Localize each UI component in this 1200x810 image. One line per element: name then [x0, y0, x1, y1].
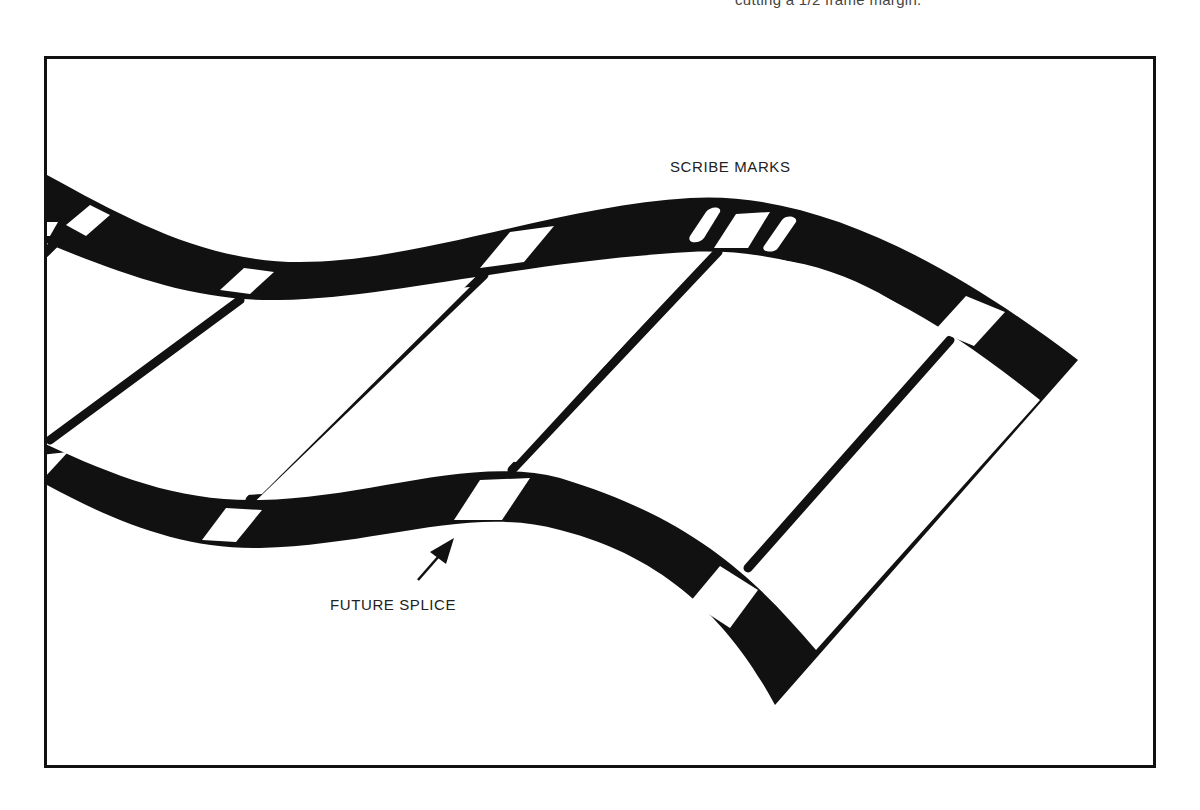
- future-splice-label: FUTURE SPLICE: [330, 596, 456, 613]
- film-strip-illustration: [0, 0, 1200, 810]
- scribe-marks-label: SCRIBE MARKS: [670, 158, 791, 175]
- future-splice-arrow-icon: [418, 538, 454, 580]
